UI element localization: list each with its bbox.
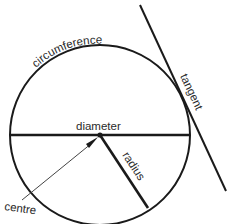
circumference-label: circumference xyxy=(29,34,102,70)
tangent-line xyxy=(140,5,226,191)
centre-pointer-arrowhead xyxy=(86,137,98,148)
diameter-label: diameter xyxy=(76,120,121,132)
radius-label: radius xyxy=(120,150,147,183)
centre-point xyxy=(97,132,102,137)
tangent-label: tangent xyxy=(178,72,205,113)
circle-parts-diagram: circumference tangent diameter radius ce… xyxy=(0,0,236,224)
centre-pointer-line xyxy=(22,143,92,200)
centre-label: centre xyxy=(4,200,37,216)
